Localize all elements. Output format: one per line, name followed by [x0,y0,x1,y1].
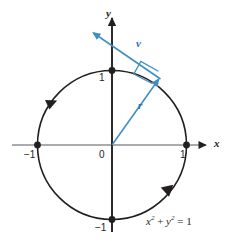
point-bottom [109,216,116,223]
right-angle-marker [134,62,159,84]
equation-plus: + [154,215,166,227]
circle-equation: x2 + y2 = 1 [146,215,192,227]
x-axis-label: x [214,138,220,149]
vector-v-label: v [136,38,141,49]
point-right [183,142,190,149]
origin-label: 0 [99,150,105,160]
unit-circle-diagram: x y 0 1 −1 1 −1 v r x2 + y2 = 1 [0,0,234,242]
y-tick-label-positive-one: 1 [99,73,105,83]
point-top [109,67,116,74]
vector-r [112,80,159,146]
diagram-canvas [0,0,234,242]
point-left [34,142,41,149]
vector-r-label: r [138,100,142,111]
y-axis-label: y [106,8,111,19]
y-tick-label-negative-one: −1 [95,223,106,233]
x-tick-label-negative-one: −1 [24,150,35,160]
equation-equals-one: = 1 [175,215,192,227]
x-tick-label-positive-one: 1 [180,150,186,160]
